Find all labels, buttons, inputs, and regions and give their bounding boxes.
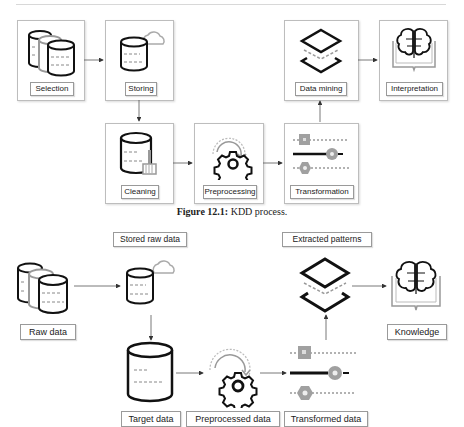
flow-arrows [0,0,464,421]
